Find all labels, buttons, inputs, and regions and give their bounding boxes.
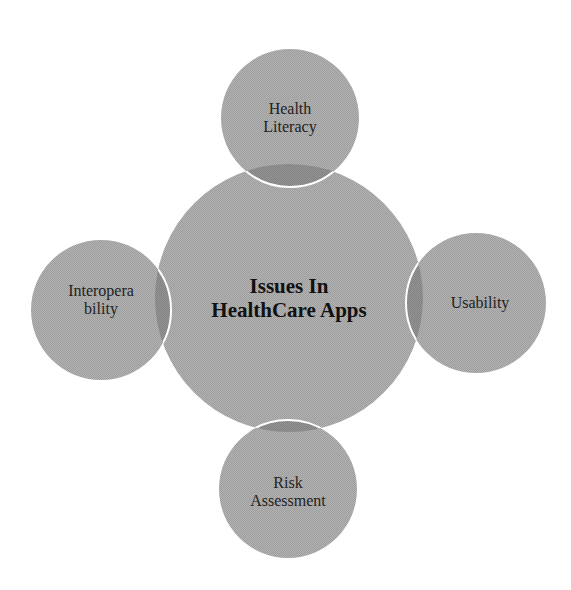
- interoperability-line-1: Interopera: [68, 282, 134, 300]
- satellite-label-usability: Usability: [420, 285, 540, 321]
- health-literacy-line-2: Literacy: [263, 118, 316, 136]
- health-literacy-line-1: Health: [263, 100, 316, 118]
- center-label: Issues In HealthCare Apps: [169, 263, 409, 333]
- risk-assessment-line-2: Assessment: [250, 492, 326, 510]
- risk-assessment-line-1: Risk: [250, 474, 326, 492]
- satellite-label-health-literacy: Health Literacy: [230, 88, 350, 148]
- center-label-line-2: HealthCare Apps: [211, 298, 366, 322]
- satellite-label-risk-assessment: Risk Assessment: [226, 462, 350, 522]
- usability-line-1: Usability: [451, 294, 510, 312]
- satellite-label-interoperability: Interopera bility: [40, 270, 162, 330]
- interoperability-line-2: bility: [68, 300, 134, 318]
- center-label-line-1: Issues In: [211, 274, 366, 298]
